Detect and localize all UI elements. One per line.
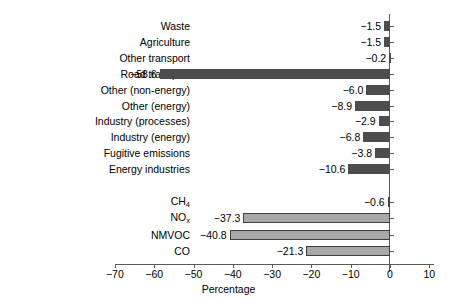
category-label: Waste — [161, 21, 190, 31]
category-label: Energy industries — [109, 164, 190, 174]
x-axis-title: Percentage — [0, 283, 457, 295]
bar-value-label: −8.9 — [331, 101, 352, 111]
bar-value-label: −0.6 — [364, 197, 385, 207]
y-tick — [390, 153, 394, 154]
category-label: Industry (processes) — [95, 116, 190, 126]
bar-sector — [384, 21, 390, 31]
y-tick — [390, 74, 394, 75]
bar-sector — [389, 53, 391, 63]
category-label: NOx — [171, 212, 191, 224]
category-label: Other (non-energy) — [101, 85, 190, 95]
bar-value-label: −40.8 — [200, 230, 227, 240]
y-tick — [390, 218, 394, 219]
bar-value-label: −1.5 — [360, 21, 381, 31]
bar-value-label: −58.6 — [130, 69, 157, 79]
bar-sector — [355, 101, 390, 111]
y-tick — [390, 42, 394, 43]
bar-value-label: −3.8 — [351, 148, 372, 158]
y-tick — [390, 235, 394, 236]
y-tick — [390, 26, 394, 27]
category-label: CH4 — [171, 196, 190, 208]
x-tick-label: −20 — [302, 269, 320, 280]
bar-value-label: −6.0 — [343, 85, 364, 95]
category-label: CO — [174, 246, 190, 256]
bar-sector — [379, 116, 390, 126]
y-tick — [390, 169, 394, 170]
bar-pollutant — [243, 213, 390, 223]
y-tick — [390, 121, 394, 122]
category-label: Fugitive emissions — [104, 148, 190, 158]
y-tick — [390, 90, 394, 91]
y-tick — [390, 251, 394, 252]
bar-value-label: −10.6 — [319, 164, 346, 174]
bar-pollutant — [388, 197, 390, 207]
category-label: Agriculture — [140, 37, 190, 47]
x-tick-label: −50 — [185, 269, 203, 280]
bar-sector — [375, 148, 390, 158]
x-axis-line — [116, 264, 434, 265]
category-label: NMVOC — [151, 230, 190, 240]
x-tick-label: 0 — [387, 269, 393, 280]
category-label: Industry (energy) — [111, 132, 190, 142]
bar-value-label: −21.3 — [277, 246, 304, 256]
category-label: Other transport — [119, 53, 190, 63]
bar-sector — [366, 85, 390, 95]
bar-sector — [363, 132, 390, 142]
bar-value-label: −37.3 — [214, 213, 241, 223]
x-tick-label: 10 — [423, 269, 435, 280]
bar-sector — [348, 164, 390, 174]
y-tick — [390, 202, 394, 203]
x-tick-label: −70 — [106, 269, 124, 280]
bar-chart: −70−60−50−40−30−20−10010 WasteAgricultur… — [0, 0, 457, 300]
y-tick — [390, 137, 394, 138]
x-tick-label: −10 — [342, 269, 360, 280]
bar-pollutant — [230, 230, 390, 240]
bar-value-label: −1.5 — [360, 37, 381, 47]
x-tick-label: −40 — [224, 269, 242, 280]
bar-sector — [160, 69, 390, 79]
y-tick — [390, 106, 394, 107]
x-tick-label: −30 — [263, 269, 281, 280]
x-tick-label: −60 — [145, 269, 163, 280]
bar-value-label: −6.8 — [340, 132, 361, 142]
category-label: Other (energy) — [122, 101, 190, 111]
bar-value-label: −0.2 — [365, 53, 386, 63]
bar-pollutant — [306, 246, 390, 256]
bar-sector — [384, 37, 390, 47]
bar-value-label: −2.9 — [355, 116, 376, 126]
